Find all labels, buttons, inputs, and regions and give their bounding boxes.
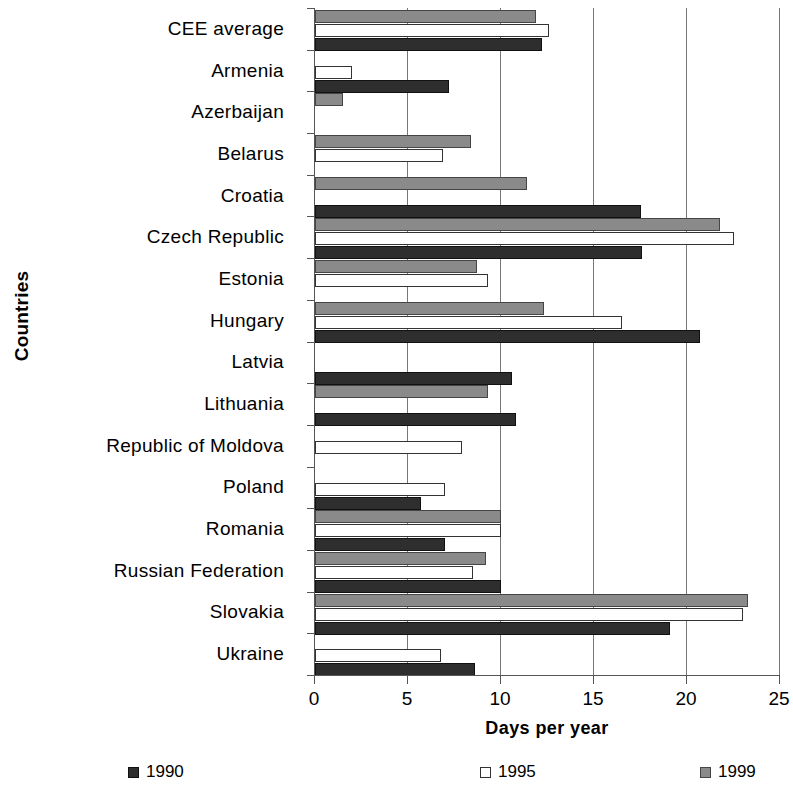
bar-1995 <box>315 316 622 329</box>
x-axis-line <box>314 675 780 676</box>
y-axis-tick <box>307 133 314 134</box>
bar-1990 <box>315 330 700 343</box>
y-axis-tick <box>307 342 314 343</box>
category-label: Slovakia <box>210 601 284 622</box>
plot-area <box>314 8 779 675</box>
bar-1995 <box>315 566 473 579</box>
x-axis-tick <box>407 675 408 684</box>
bar-1995 <box>315 441 462 454</box>
chart-legend: 199019951999 <box>0 762 793 792</box>
bar-1990 <box>315 246 642 259</box>
legend-swatch-icon <box>700 767 711 778</box>
x-axis-tick-label: 15 <box>563 688 623 710</box>
bar-1995 <box>315 524 501 537</box>
bar-1999 <box>315 218 720 231</box>
bar-1999 <box>315 135 471 148</box>
category-label: Russian Federation <box>114 560 284 581</box>
category-label: Romania <box>206 518 284 539</box>
legend-item-1990: 1990 <box>128 762 184 782</box>
bar-1990 <box>315 372 512 385</box>
category-label: Poland <box>223 476 284 497</box>
y-axis-tick <box>307 258 314 259</box>
x-axis-tick-label: 10 <box>470 688 530 710</box>
category-label: Czech Republic <box>147 226 284 247</box>
x-axis-tick-label: 20 <box>656 688 716 710</box>
y-axis-tick <box>307 50 314 51</box>
bar-1990 <box>315 580 501 593</box>
bar-1999 <box>315 10 536 23</box>
bar-1999 <box>315 385 488 398</box>
y-axis-tick <box>307 8 314 9</box>
category-label: Armenia <box>211 60 284 81</box>
y-axis-tick <box>307 383 314 384</box>
category-label: Azerbaijan <box>191 101 284 122</box>
bar-1999 <box>315 510 501 523</box>
category-label: Belarus <box>217 143 284 164</box>
y-axis-tick <box>307 216 314 217</box>
bar-1990 <box>315 205 641 218</box>
y-axis-tick <box>307 550 314 551</box>
category-label: Lithuania <box>204 393 284 414</box>
bar-1995 <box>315 649 441 662</box>
legend-item-1995: 1995 <box>480 762 536 782</box>
x-axis-tick <box>779 675 780 684</box>
legend-item-1999: 1999 <box>700 762 756 782</box>
bar-1999 <box>315 302 544 315</box>
bar-1999 <box>315 552 486 565</box>
category-label-column: CEE averageArmeniaAzerbaijanBelarusCroat… <box>0 8 296 675</box>
y-axis-tick <box>307 633 314 634</box>
bar-1990 <box>315 413 516 426</box>
x-axis-tick-label: 0 <box>284 688 344 710</box>
category-label: Estonia <box>219 268 284 289</box>
x-axis-tick <box>500 675 501 684</box>
bar-1990 <box>315 538 445 551</box>
x-axis-tick <box>314 675 315 684</box>
bar-1990 <box>315 622 670 635</box>
x-axis-tick-label: 25 <box>749 688 793 710</box>
bar-1999 <box>315 93 343 106</box>
bar-1990 <box>315 80 449 93</box>
y-axis-tick <box>307 425 314 426</box>
bar-1995 <box>315 232 734 245</box>
bar-1990 <box>315 38 542 51</box>
category-label: Republic of Moldova <box>106 435 284 456</box>
category-label: Croatia <box>221 185 284 206</box>
legend-label: 1995 <box>498 762 536 782</box>
bar-1999 <box>315 177 527 190</box>
legend-swatch-icon <box>128 767 139 778</box>
x-axis-title: Days per year <box>314 718 780 739</box>
category-label: Hungary <box>210 310 284 331</box>
y-axis-tick <box>307 675 314 676</box>
gridline <box>779 8 780 675</box>
y-axis-tick <box>307 91 314 92</box>
y-axis-tick <box>307 175 314 176</box>
bar-1995 <box>315 483 445 496</box>
bar-1995 <box>315 608 743 621</box>
bar-1999 <box>315 260 477 273</box>
category-label: Latvia <box>231 351 284 372</box>
bar-1995 <box>315 66 352 79</box>
bar-1995 <box>315 24 549 37</box>
bar-1995 <box>315 274 488 287</box>
legend-label: 1999 <box>718 762 756 782</box>
bar-1995 <box>315 149 443 162</box>
category-label: Ukraine <box>216 643 284 664</box>
bar-chart: Countries CEE averageArmeniaAzerbaijanBe… <box>0 0 793 798</box>
x-axis-tick <box>686 675 687 684</box>
x-axis-tick <box>593 675 594 684</box>
y-axis-tick <box>307 467 314 468</box>
legend-swatch-icon <box>480 767 491 778</box>
y-axis-tick <box>307 592 314 593</box>
y-axis-tick <box>307 508 314 509</box>
y-axis-tick <box>307 300 314 301</box>
x-axis-tick-label: 5 <box>377 688 437 710</box>
category-label: CEE average <box>168 18 284 39</box>
bar-1990 <box>315 497 421 510</box>
legend-label: 1990 <box>146 762 184 782</box>
bar-1999 <box>315 594 748 607</box>
